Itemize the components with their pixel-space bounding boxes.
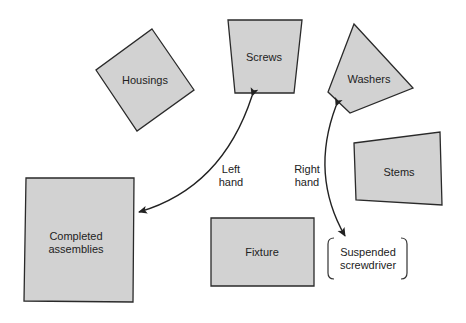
completed-label-line2: assemblies	[48, 243, 104, 255]
screwdriver-label-line1: Suspended	[340, 246, 396, 258]
completed-assemblies-bin: Completed assemblies	[24, 178, 134, 302]
right-hand-label-line1: Right	[294, 163, 320, 175]
stems-bin: Stems	[354, 132, 442, 205]
fixture-label: Fixture	[245, 246, 279, 258]
washers-bin: Washers	[328, 24, 413, 113]
right-hand-arrow: Right hand	[294, 106, 345, 236]
left-hand-label-line2: hand	[219, 176, 243, 188]
washers-label: Washers	[348, 73, 391, 85]
stems-label: Stems	[383, 166, 415, 178]
screwdriver-label-line2: screwdriver	[340, 259, 397, 271]
housings-bin: Housings	[96, 29, 194, 131]
fixture: Fixture	[211, 218, 314, 286]
screws-bin: Screws	[228, 20, 302, 93]
left-hand-label-line1: Left	[222, 163, 240, 175]
screws-label: Screws	[246, 51, 283, 63]
right-hand-label-line2: hand	[295, 176, 319, 188]
workplace-layout-diagram: Housings Screws Washers Stems Completed …	[0, 0, 466, 323]
suspended-screwdriver: Suspended screwdriver	[328, 238, 407, 279]
housings-label: Housings	[122, 74, 168, 86]
completed-label-line1: Completed	[49, 230, 102, 242]
